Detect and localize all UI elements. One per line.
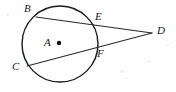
secant-line-bd [36, 17, 152, 33]
center-point-dot [57, 41, 61, 45]
point-label-c: C [12, 61, 19, 72]
point-label-b: B [24, 3, 31, 14]
geometry-figure: B E D A C F [0, 0, 176, 92]
point-label-e: E [95, 11, 102, 22]
point-label-f: F [97, 48, 104, 59]
point-label-d: D [157, 25, 165, 36]
point-label-a: A [44, 37, 51, 48]
